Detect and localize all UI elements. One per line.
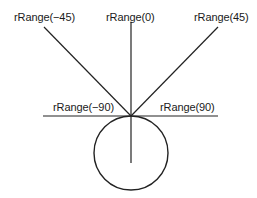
label-rrange-zero: rRange(0) <box>106 11 155 23</box>
label-rrange-pos45: rRange(45) <box>194 11 249 23</box>
label-rrange-neg90: rRange(−90) <box>53 101 114 113</box>
label-rrange-neg45: rRange(−45) <box>14 11 75 23</box>
label-rrange-pos90: rRange(90) <box>160 101 215 113</box>
range-diagram <box>0 0 257 198</box>
